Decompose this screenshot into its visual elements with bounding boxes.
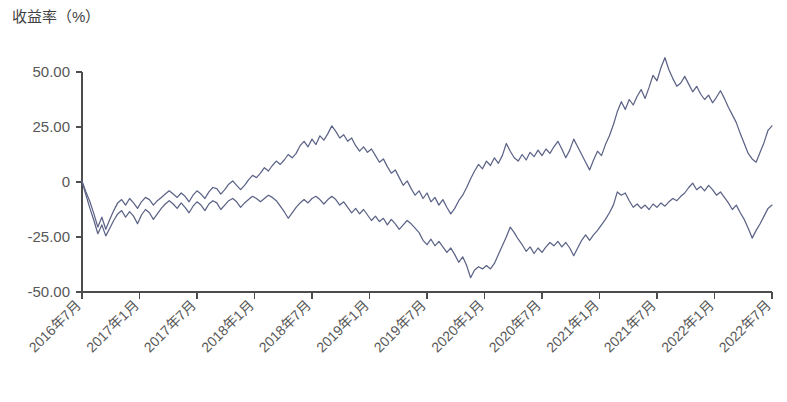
series-upper [82, 58, 772, 230]
y-axis-tick-label: -25.00 [27, 228, 70, 245]
y-axis-tick-label: 0 [62, 173, 70, 190]
y-axis-title: 收益率（%） [12, 8, 100, 25]
x-axis-tick-label: 2022年7月 [715, 297, 774, 356]
y-axis-tick-group: 50.0025.000-25.00-50.00 [27, 63, 82, 300]
x-axis-tick-label: 2021年1月 [543, 297, 602, 356]
series-group [82, 58, 772, 278]
x-axis-tick-label: 2019年1月 [313, 297, 372, 356]
x-axis-tick-label: 2017年7月 [140, 297, 199, 356]
return-rate-line-chart: 收益率（%） 50.0025.000-25.00-50.00 2016年7月20… [0, 0, 787, 402]
y-axis-tick-label: 25.00 [32, 118, 70, 135]
x-axis-label-group: 2016年7月2017年1月2017年7月2018年1月2018年7月2019年… [25, 297, 774, 356]
x-axis-tick-label: 2016年7月 [25, 297, 84, 356]
x-axis-tick-label: 2020年1月 [428, 297, 487, 356]
x-axis-tick-label: 2017年1月 [83, 297, 142, 356]
chart-canvas: 收益率（%） 50.0025.000-25.00-50.00 2016年7月20… [0, 0, 787, 402]
axis-frame [82, 72, 772, 292]
x-axis-tick-label: 2020年7月 [485, 297, 544, 356]
y-axis-tick-label: 50.00 [32, 63, 70, 80]
x-axis-tick-label: 2018年7月 [255, 297, 314, 356]
x-axis-tick-label: 2019年7月 [370, 297, 429, 356]
y-axis-tick-label: -50.00 [27, 283, 70, 300]
x-axis-tick-label: 2018年1月 [198, 297, 257, 356]
x-axis-tick-label: 2021年7月 [600, 297, 659, 356]
x-axis-tick-label: 2022年1月 [658, 297, 717, 356]
